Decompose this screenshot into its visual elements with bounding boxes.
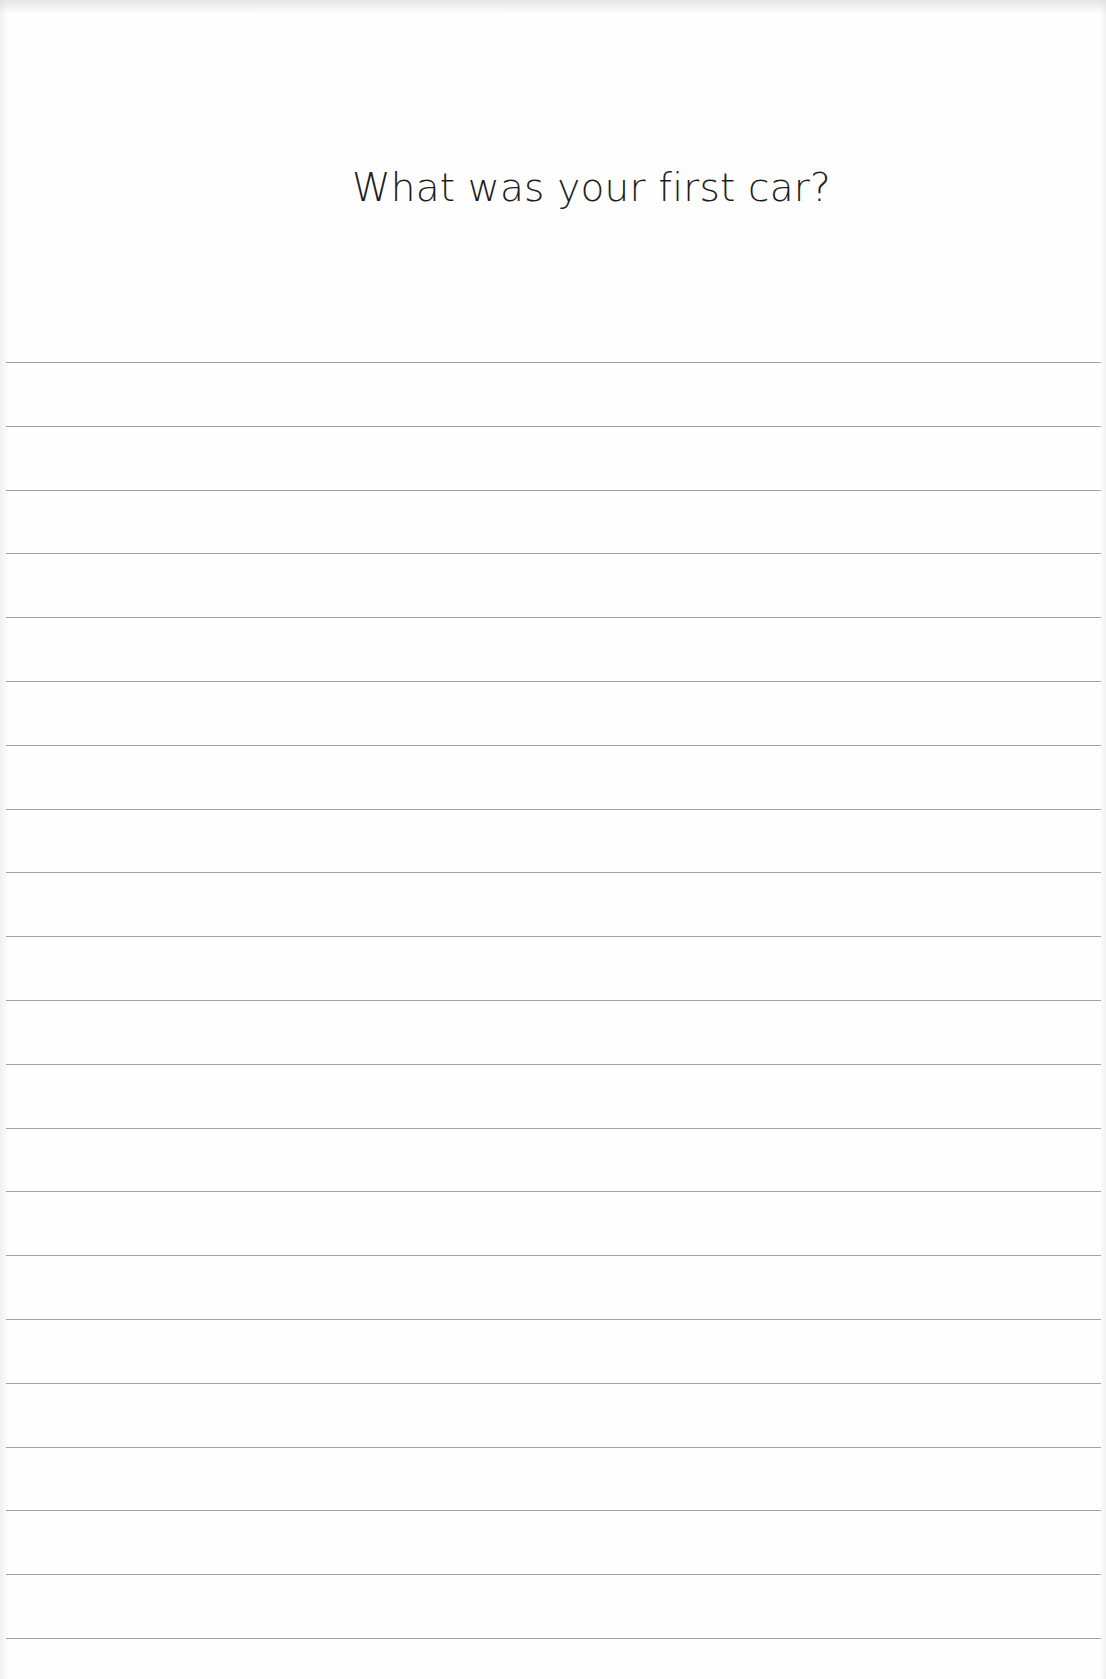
writing-line bbox=[6, 872, 1101, 873]
writing-line bbox=[6, 936, 1101, 937]
writing-line bbox=[6, 1000, 1101, 1001]
writing-line bbox=[6, 1638, 1101, 1639]
writing-line bbox=[6, 1319, 1101, 1320]
writing-line bbox=[6, 426, 1101, 427]
writing-line bbox=[6, 490, 1101, 491]
journal-page: What was your first car? bbox=[0, 0, 1106, 1679]
writing-line bbox=[6, 1255, 1101, 1256]
writing-line bbox=[6, 1510, 1101, 1511]
writing-line bbox=[6, 1383, 1101, 1384]
writing-line bbox=[6, 1191, 1101, 1192]
writing-line bbox=[6, 553, 1101, 554]
writing-line bbox=[6, 1447, 1101, 1448]
writing-line bbox=[6, 745, 1101, 746]
writing-line bbox=[6, 1574, 1101, 1575]
writing-line bbox=[6, 681, 1101, 682]
writing-line bbox=[6, 1064, 1101, 1065]
writing-line bbox=[6, 809, 1101, 810]
writing-line bbox=[6, 1128, 1101, 1129]
writing-line bbox=[6, 617, 1101, 618]
writing-line bbox=[6, 362, 1101, 363]
writing-lines bbox=[6, 0, 1101, 1679]
